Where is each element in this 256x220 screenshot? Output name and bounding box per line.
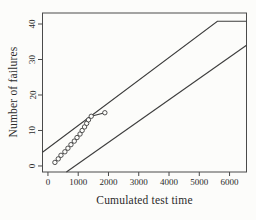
x-tick-label: 4000 [160, 177, 179, 187]
x-tick-label: 1000 [69, 177, 88, 187]
plot-box [43, 13, 247, 172]
y-tick-label: 40 [28, 19, 38, 29]
lower-decision-boundary [66, 45, 246, 172]
y-tick-label: 0 [28, 163, 38, 168]
failure-point [69, 142, 73, 146]
x-tick-label: 5000 [190, 177, 209, 187]
x-axis-title: Cumulated test time [42, 194, 247, 206]
y-tick-label: 30 [28, 54, 38, 64]
failure-point [53, 160, 57, 164]
sequential-test-chart: 0100020003000400050006000010203040 Cumul… [0, 0, 256, 220]
x-tick-label: 0 [46, 177, 51, 187]
y-axis-title: Number of failures [7, 46, 19, 137]
failure-point [59, 153, 63, 157]
x-tick-label: 6000 [221, 177, 240, 187]
failure-point [89, 114, 93, 118]
x-tick-label: 3000 [130, 177, 149, 187]
plot-area: 0100020003000400050006000010203040 [0, 0, 256, 220]
y-tick-label: 20 [28, 90, 38, 100]
y-tick-label: 10 [28, 125, 38, 135]
upper-decision-boundary [43, 21, 247, 152]
x-tick-label: 2000 [99, 177, 118, 187]
failure-point [103, 111, 107, 115]
